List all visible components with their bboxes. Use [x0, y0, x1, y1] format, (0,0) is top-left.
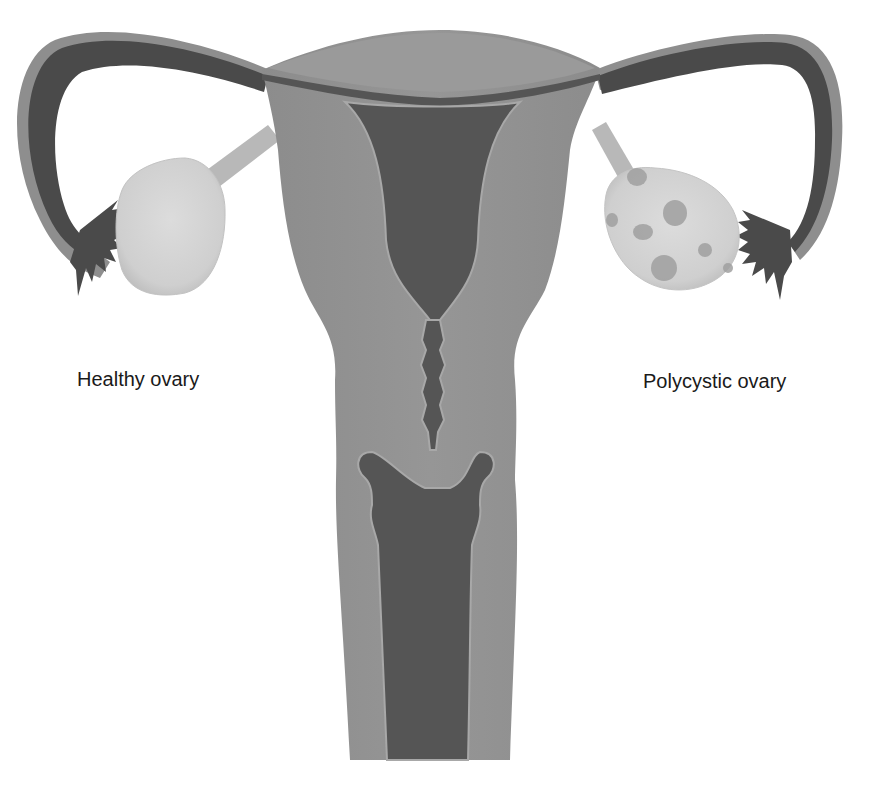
polycystic-ovary-label: Polycystic ovary: [643, 370, 786, 393]
right-fimbriae: [736, 210, 792, 300]
uterus-ovary-diagram: [0, 0, 874, 787]
polycystic-ovary: [605, 167, 740, 289]
healthy-ovary-label: Healthy ovary: [77, 368, 199, 391]
healthy-ovary: [116, 158, 225, 295]
